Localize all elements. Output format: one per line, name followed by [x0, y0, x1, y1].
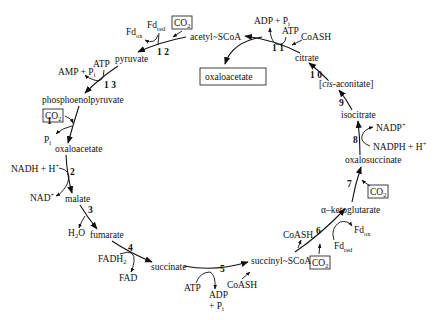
cofactor-pi-1: Pi	[44, 135, 51, 146]
cofactor-h2o-3: H2O	[68, 228, 85, 239]
arrow-co2-12	[173, 31, 182, 37]
cofactor-co2-1: CO2	[45, 111, 61, 122]
arrow-pi-1	[56, 126, 72, 134]
metabolite-acetyl-scoa: acetyl~SCoA	[190, 32, 241, 42]
arrow-step-5	[184, 262, 248, 268]
arrow-co2-7	[362, 180, 370, 186]
cofactor-nadp-8: NADP+	[376, 121, 406, 133]
step-9-number: 9	[339, 98, 344, 108]
cofactor-co2-6: CO2	[312, 258, 328, 269]
arrow-step-8	[358, 121, 360, 155]
arrow-co2-6	[319, 244, 320, 254]
metabolite-oxalosuccinate: oxalosuccinate	[345, 155, 401, 165]
cofactor-nad-2: NAD+	[30, 191, 55, 203]
metabolite-pyruvate: pyruvate	[115, 54, 148, 64]
cofactor-fd-ox-6: Fdox	[354, 225, 371, 237]
arrow-step-7	[352, 167, 361, 202]
cofactor-fad-4: FAD	[119, 273, 137, 283]
metabolite-malate: malate	[65, 194, 90, 204]
line-fdred-12	[158, 33, 159, 45]
cofactor-pi-5: + Pi	[209, 301, 224, 312]
metabolite-isocitrate: isocitrate	[341, 110, 376, 120]
cofactor-co2-12: CO2	[174, 18, 190, 29]
step-13-number: 1 3	[104, 80, 116, 90]
cofactor-fd-red-12: Fdred	[147, 20, 166, 32]
metabolite-oxaloacetate-product: oxaloacetate	[205, 72, 252, 82]
arrow-fdox-12	[145, 35, 158, 42]
metabolite-fumarate: fumarate	[90, 230, 124, 240]
metabolite-phosphoenolpyruvate: phosphoenolpyruvate	[42, 95, 124, 105]
arrow-nadh-nad-2	[56, 168, 69, 196]
cofactor-atp-5: ATP	[184, 283, 201, 293]
step-12-number: 1 2	[157, 47, 169, 57]
metabolite-succinyl-scoa: succinyl~SCoA	[251, 256, 311, 266]
cofactor-fadh2-4: FADH2	[98, 254, 126, 265]
arrow-h2o-3	[79, 216, 85, 228]
metabolite-alpha-ketoglutarate: α–ketoglutarate	[321, 205, 380, 215]
cofactor-nadh-2: NADH + H+	[11, 162, 59, 174]
cofactor-atp-13: ATP	[93, 59, 110, 69]
reductive-tca-cycle-diagram: acetyl~SCoA pyruvate phosphoenolpyruvate…	[0, 0, 434, 320]
arrow-step-1	[68, 106, 79, 143]
step-10-number: 1 0	[310, 70, 322, 80]
step-8-number: 8	[353, 135, 358, 145]
cofactor-coash-6: CoASH	[283, 230, 313, 240]
cofactor-fd-ox-12: Fdox	[126, 27, 143, 39]
cofactor-atp-11: ATP	[282, 26, 299, 36]
cofactor-coash-5: CoASH	[227, 280, 257, 290]
arrow-nadph-nadp-8	[362, 127, 373, 146]
step-7-number: 7	[347, 179, 352, 189]
arrow-coash-5	[242, 272, 250, 279]
metabolite-oxaloacetate: oxaloacetate	[55, 144, 102, 154]
step-3-number: 3	[88, 205, 93, 215]
cofactor-nadph-8: NADPH + H+	[373, 140, 427, 152]
step-5-number: 5	[220, 264, 225, 274]
metabolite-cis-aconitate: [cis-aconitate]	[319, 79, 373, 89]
arrow-fdred-fdox-6	[333, 222, 352, 241]
step-2-number: 2	[70, 167, 75, 177]
cofactor-fd-red-6: Fdred	[334, 241, 353, 253]
arrow-coash-11	[292, 40, 302, 45]
metabolite-citrate: citrate	[295, 53, 319, 63]
cofactor-co2-7: CO2	[370, 187, 386, 198]
arrow-coash-6	[298, 240, 301, 248]
metabolite-succinate: succinate	[151, 262, 186, 272]
cofactor-amp-pi-13: AMP + Pi	[58, 67, 96, 78]
cofactor-adp-5: ADP	[209, 290, 228, 300]
arrow-co2-1	[65, 116, 73, 123]
cofactor-coash-11: CoASH	[301, 32, 331, 42]
